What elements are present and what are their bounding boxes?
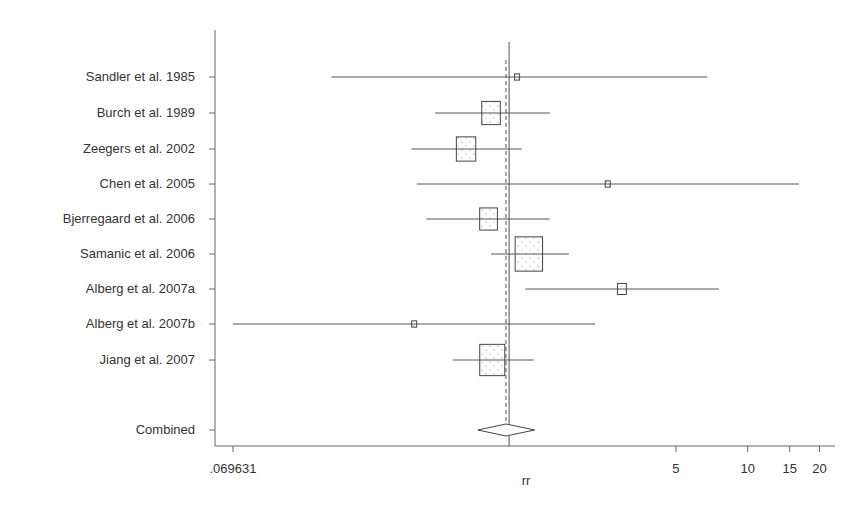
effect-size-box xyxy=(605,181,610,187)
study-label: Sandler et al. 1985 xyxy=(86,69,195,84)
effect-size-box xyxy=(515,237,542,271)
effect-size-box xyxy=(480,344,505,375)
study-row: Samanic et al. 2006 xyxy=(80,237,569,271)
study-label: Burch et al. 1989 xyxy=(97,105,195,120)
study-label: Chen et al. 2005 xyxy=(100,176,195,191)
study-row: Jiang et al. 2007 xyxy=(100,344,534,375)
pooled-diamond xyxy=(478,424,535,436)
study-row: Zeegers et al. 2002 xyxy=(83,137,522,161)
study-label: Jiang et al. 2007 xyxy=(100,352,195,367)
effect-size-box xyxy=(482,101,501,124)
combined-label: Combined xyxy=(136,422,195,437)
effect-size-box xyxy=(515,74,520,80)
x-tick-label: .069631 xyxy=(210,461,257,476)
study-row: Sandler et al. 1985 xyxy=(86,69,707,84)
combined-row: Combined xyxy=(136,422,535,437)
x-tick-label: 15 xyxy=(782,461,796,476)
study-label: Alberg et al. 2007a xyxy=(86,281,196,296)
study-row: Chen et al. 2005 xyxy=(100,176,799,191)
x-tick-label: 10 xyxy=(740,461,754,476)
study-row: Alberg et al. 2007b xyxy=(86,316,595,331)
forest-plot: Sandler et al. 1985Burch et al. 1989Zeeg… xyxy=(0,0,859,508)
x-tick-label: 20 xyxy=(812,461,826,476)
study-label: Samanic et al. 2006 xyxy=(80,246,195,261)
effect-size-box xyxy=(617,283,626,294)
effect-size-box xyxy=(412,321,417,327)
study-label: Bjerregaard et al. 2006 xyxy=(63,211,195,226)
study-label: Zeegers et al. 2002 xyxy=(83,141,195,156)
x-axis-label: rr xyxy=(522,473,531,488)
study-row: Bjerregaard et al. 2006 xyxy=(63,208,550,230)
study-row: Burch et al. 1989 xyxy=(97,101,550,124)
x-tick-label: 5 xyxy=(672,461,679,476)
study-row: Alberg et al. 2007a xyxy=(86,281,719,296)
effect-size-box xyxy=(480,208,498,230)
study-label: Alberg et al. 2007b xyxy=(86,316,195,331)
effect-size-box xyxy=(456,137,475,161)
